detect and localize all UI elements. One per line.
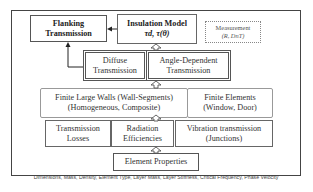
arrow-up-icon — [66, 42, 71, 47]
hollow-arrow-up-icon — [151, 147, 161, 153]
hollow-arrow-up-icon — [151, 81, 161, 88]
hollow-arrow-up-icon — [151, 44, 161, 50]
arrow-left-icon — [107, 27, 112, 32]
hollow-arrow-up-icon — [151, 115, 161, 121]
properties-footer: Dimensions, Mass, Density, Element Type,… — [12, 174, 300, 180]
connector-arrows — [0, 0, 313, 192]
